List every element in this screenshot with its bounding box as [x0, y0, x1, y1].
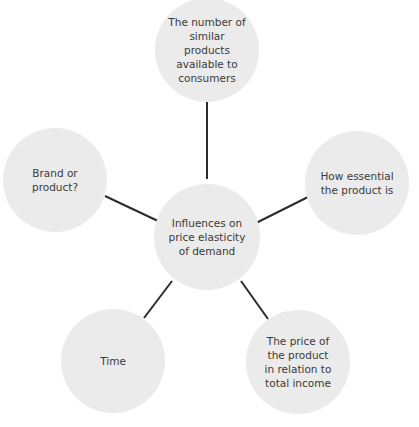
connector-time	[144, 281, 172, 318]
node-central: Influences on price elasticity of demand	[154, 184, 260, 290]
connector-brand-product	[105, 196, 158, 221]
node-how-essential-label: How essential the product is	[320, 169, 393, 197]
node-how-essential: How essential the product is	[305, 131, 409, 235]
node-price-income: The price of the product in relation to …	[246, 310, 350, 414]
connector-price-income	[241, 281, 268, 319]
node-brand-product-label: Brand or product?	[32, 166, 78, 194]
diagram-canvas: The number of similar products available…	[0, 0, 419, 427]
node-similar-products-label: The number of similar products available…	[165, 15, 249, 85]
node-brand-product: Brand or product?	[3, 128, 107, 232]
connector-how-essential	[256, 197, 308, 223]
node-similar-products: The number of similar products available…	[155, 0, 259, 102]
node-time-label: Time	[100, 354, 126, 368]
node-price-income-label: The price of the product in relation to …	[265, 334, 332, 390]
node-time: Time	[61, 309, 165, 413]
node-central-label: Influences on price elasticity of demand	[169, 216, 246, 258]
